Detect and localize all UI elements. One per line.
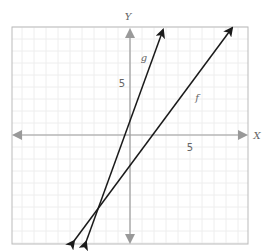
line-g-label: g [141,52,147,63]
coordinate-plane: Y X 5 5 g f [0,0,264,252]
y-tick-label-5: 5 [119,78,125,89]
y-axis-label: Y [125,11,133,22]
x-tick-label-5: 5 [187,142,193,153]
x-axis-label: X [252,130,261,141]
line-f-label: f [194,92,201,103]
